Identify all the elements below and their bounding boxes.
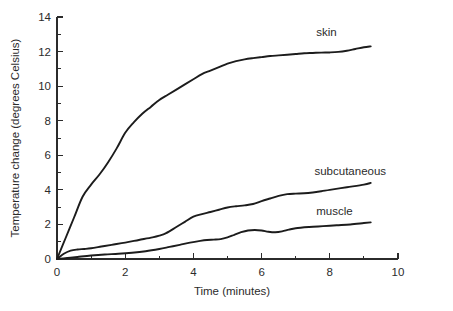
series-label-muscle: muscle <box>316 205 352 217</box>
x-tick-label: 6 <box>258 266 264 278</box>
y-axis-tick-labels: 02468101214 <box>38 11 51 265</box>
x-tick-label: 2 <box>122 266 128 278</box>
y-tick-label: 6 <box>45 149 51 161</box>
chart-figure: 0246810 02468101214 skinsubcutaneousmusc… <box>0 0 453 311</box>
x-tick-label: 10 <box>392 266 405 278</box>
series-line-subcutaneous <box>57 183 371 259</box>
series-inline-labels: skinsubcutaneousmuscle <box>314 26 386 217</box>
y-axis-title: Temperature change (degrees Celsius) <box>9 38 21 237</box>
series-line-muscle <box>57 222 371 259</box>
y-tick-label: 2 <box>45 218 51 230</box>
x-axis-title: Time (minutes) <box>194 285 270 297</box>
x-tick-label: 0 <box>54 266 60 278</box>
y-tick-label: 10 <box>38 80 51 92</box>
y-tick-label: 0 <box>45 253 51 265</box>
x-tick-label: 8 <box>327 266 333 278</box>
series-line-skin <box>57 46 371 259</box>
y-tick-label: 12 <box>38 46 51 58</box>
x-axis-tick-labels: 0246810 <box>54 266 405 278</box>
line-chart: 0246810 02468101214 skinsubcutaneousmusc… <box>0 0 453 311</box>
series-label-subcutaneous: subcutaneous <box>314 165 386 177</box>
y-tick-label: 4 <box>45 184 52 196</box>
x-tick-label: 4 <box>190 266 197 278</box>
series-lines <box>57 46 371 259</box>
y-tick-label: 8 <box>45 115 51 127</box>
y-tick-label: 14 <box>38 11 51 23</box>
series-label-skin: skin <box>316 26 336 38</box>
